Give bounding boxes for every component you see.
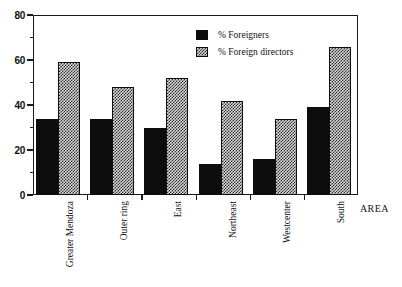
bar-outer-ring-series-0 [90,119,112,196]
bar-south-series-0 [307,107,329,195]
legend-item-foreign-directors: % Foreign directors [196,43,346,60]
x-axis-tick-2 [141,195,142,200]
x-axis-tick-4 [250,195,251,200]
legend-swatch-foreign-directors [196,47,208,57]
x-label-text: South [336,201,346,223]
y-tick-label-20: 20 [14,143,25,158]
x-axis-tick-3 [196,195,197,200]
x-label-westcenter: Westcenter [279,201,289,243]
bar-westcenter-series-1 [275,119,297,196]
bar-westcenter-series-0 [253,159,275,195]
x-axis-title: AREA [360,203,389,214]
y-tick-label-80: 80 [14,8,25,23]
x-label-northeast: Northeast [225,201,235,238]
bar-outer-ring-series-1 [112,87,134,195]
legend-item-foreigners: % Foreigners [196,26,346,43]
x-label-outer-ring: Outer ring [116,201,126,240]
x-axis-tick-5 [304,195,305,200]
x-label-text: Greater Mendoza [65,201,75,267]
bar-greater-mendoza-series-0 [36,119,58,196]
legend-swatch-foreigners [196,30,208,40]
bar-chart-figure: 020406080 Greater MendozaOuter ringEastN… [0,0,402,287]
x-label-south: South [333,201,343,223]
x-label-text: Westcenter [282,201,292,243]
y-tick-label-60: 60 [14,53,25,68]
y-axis: 020406080 [0,15,33,195]
bar-northeast-series-1 [221,101,243,196]
x-label-greater-mendoza: Greater Mendoza [62,201,72,267]
chart-legend: % Foreigners % Foreign directors [196,26,346,60]
legend-label-foreigners: % Foreigners [218,30,269,40]
x-axis-category-labels: Greater MendozaOuter ringEastNortheastWe… [33,201,358,287]
x-label-text: Northeast [228,201,238,238]
x-label-east: East [170,201,180,217]
x-label-text: East [173,201,183,217]
x-axis-tick-1 [87,195,88,200]
x-label-text: Outer ring [119,201,129,240]
y-tick-label-40: 40 [14,98,25,113]
bar-northeast-series-0 [199,164,221,196]
bar-greater-mendoza-series-1 [58,62,80,195]
bar-east-series-0 [144,128,166,196]
bar-south-series-1 [329,47,351,196]
y-tick-label-0: 0 [20,188,25,203]
legend-label-foreign-directors: % Foreign directors [218,47,293,57]
bar-east-series-1 [166,78,188,195]
